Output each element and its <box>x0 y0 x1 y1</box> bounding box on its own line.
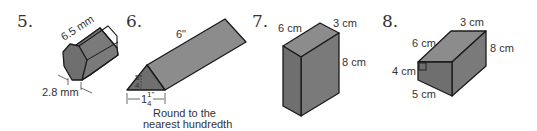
problem-7: 7. 6 cm 3 cm 8 cm <box>252 11 366 116</box>
height-label: 8 cm <box>490 42 514 54</box>
left-label: 4 cm <box>392 65 416 77</box>
rounding-note-line2: nearest hundredth <box>143 118 232 130</box>
problem-number: 8. <box>382 11 398 31</box>
problem-number: 7. <box>252 11 268 31</box>
rectangular-prism-figure <box>283 23 339 116</box>
base-numerator: 1" <box>147 90 154 99</box>
width-label: 3 cm <box>333 17 357 29</box>
problem-5: 5. 6.5 mm 2.8 mm <box>17 11 118 98</box>
bottom-label: 5 cm <box>412 88 436 100</box>
problem-number: 6. <box>126 11 142 31</box>
width-label: 3 cm <box>460 16 484 28</box>
height-label: 8 cm <box>342 56 366 68</box>
triangular-prism-figure <box>127 19 246 90</box>
base-denominator: 4 <box>147 99 152 108</box>
length-label: 6" <box>176 28 186 40</box>
worksheet-figures: 5. 6.5 mm 2.8 mm 6. 6" 5" 4 <box>0 0 537 131</box>
problem-6: 6. 6" 5" 4 1 1" 4 Round to the nearest h… <box>126 11 246 130</box>
height-denominator: 4 <box>135 81 140 90</box>
depth-label: 6 cm <box>278 22 302 34</box>
problem-number: 5. <box>17 11 33 31</box>
top-label: 6 cm <box>412 37 436 49</box>
side-label: 2.8 mm <box>42 86 79 98</box>
problem-8: 8. 6 cm 3 cm 8 cm 4 cm 5 cm <box>382 11 514 100</box>
